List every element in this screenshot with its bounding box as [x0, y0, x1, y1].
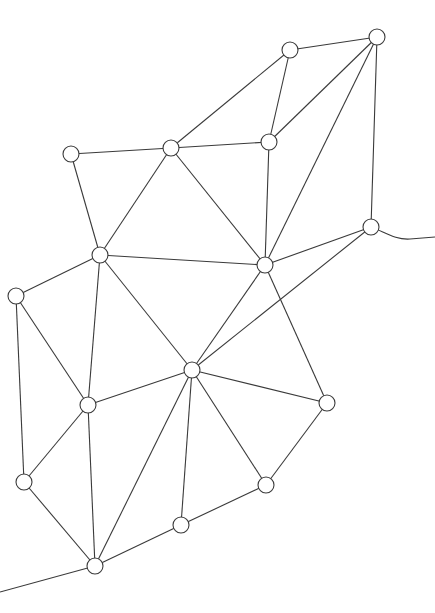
edge-b-h: [371, 37, 377, 227]
edge-g-j: [192, 265, 265, 370]
edge-layer: [16, 37, 377, 566]
node-f: [92, 247, 108, 263]
network-diagram: [0, 0, 435, 613]
node-b: [369, 29, 385, 45]
edge-j-o: [181, 370, 192, 525]
edge-c-a: [171, 50, 290, 148]
edge-d-g: [265, 142, 269, 265]
tail-line-p: [0, 566, 95, 592]
node-j: [184, 362, 200, 378]
edge-a-b: [290, 37, 377, 50]
edge-n-o: [181, 485, 266, 525]
edge-c-f: [100, 148, 171, 255]
node-i: [8, 288, 24, 304]
node-h: [363, 219, 379, 235]
edge-o-p: [95, 525, 181, 566]
edge-c-d: [171, 142, 269, 148]
node-g: [257, 257, 273, 273]
edge-f-i: [16, 255, 100, 296]
edge-a-d: [269, 50, 290, 142]
node-l: [319, 395, 335, 411]
edge-f-k: [88, 255, 100, 405]
node-e: [63, 146, 79, 162]
node-c: [163, 140, 179, 156]
edge-f-j: [100, 255, 192, 370]
edge-j-k: [88, 370, 192, 405]
node-p: [87, 558, 103, 574]
tail-line-h: [371, 227, 435, 239]
edge-m-p: [24, 482, 95, 566]
node-layer: [8, 29, 385, 574]
edge-j-p: [95, 370, 192, 566]
edge-j-n: [192, 370, 266, 485]
edge-h-j: [192, 227, 371, 370]
edge-k-m: [24, 405, 88, 482]
node-n: [258, 477, 274, 493]
node-a: [282, 42, 298, 58]
edge-e-c: [71, 148, 171, 154]
node-m: [16, 474, 32, 490]
node-d: [261, 134, 277, 150]
edge-j-l: [192, 370, 327, 403]
edge-k-p: [88, 405, 95, 566]
node-o: [173, 517, 189, 533]
edge-c-g: [171, 148, 265, 265]
edge-e-f: [71, 154, 100, 255]
node-k: [80, 397, 96, 413]
edge-f-g: [100, 255, 265, 265]
edge-i-m: [16, 296, 24, 482]
edge-g-l: [265, 265, 327, 403]
edge-l-n: [266, 403, 327, 485]
graph-canvas: [0, 0, 435, 613]
edge-i-k: [16, 296, 88, 405]
